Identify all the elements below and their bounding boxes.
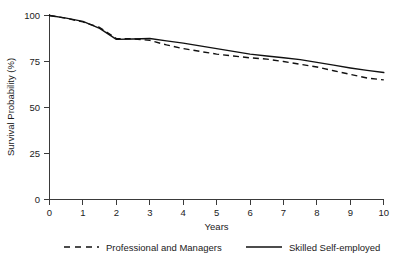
legend-label-skilled-self-employed: Skilled Self-employed	[289, 242, 380, 253]
chart-canvas: 0 25 50 75 100 0 1 2 3 4 5 6 7 8 9 10	[0, 0, 404, 262]
x-tick-label-8: 8	[314, 207, 319, 218]
y-axis-ticks	[44, 16, 50, 200]
x-tick-label-3: 3	[147, 207, 152, 218]
survival-probability-chart: 0 25 50 75 100 0 1 2 3 4 5 6 7 8 9 10	[0, 0, 404, 262]
x-tick-label-2: 2	[114, 207, 119, 218]
x-axis-ticks	[50, 200, 384, 206]
x-tick-label-6: 6	[247, 207, 252, 218]
chart-legend: Professional and Managers Skilled Self-e…	[64, 242, 380, 253]
y-tick-label-50: 50	[29, 102, 40, 113]
x-axis-title: Years	[205, 221, 229, 232]
y-tick-label-0: 0	[35, 194, 40, 205]
x-tick-label-4: 4	[181, 207, 186, 218]
y-tick-label-100: 100	[24, 10, 40, 21]
x-tick-label-10: 10	[379, 207, 390, 218]
x-tick-label-7: 7	[281, 207, 286, 218]
x-tick-label-1: 1	[80, 207, 85, 218]
y-axis-title: Survival Probability (%)	[5, 58, 16, 156]
legend-label-professional-and-managers: Professional and Managers	[106, 242, 222, 253]
y-tick-label-75: 75	[29, 56, 40, 67]
x-tick-label-9: 9	[348, 207, 353, 218]
series-line-skilled-self-employed	[50, 16, 384, 73]
series-line-professional-and-managers	[50, 16, 384, 80]
x-tick-label-5: 5	[214, 207, 219, 218]
x-tick-label-0: 0	[47, 207, 52, 218]
y-tick-label-25: 25	[29, 148, 40, 159]
